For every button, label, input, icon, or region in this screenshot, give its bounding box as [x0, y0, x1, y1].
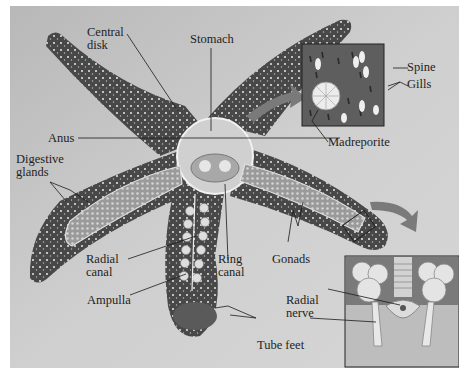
label-anus: Anus [48, 132, 74, 145]
label-radial-nerve: Radial nerve [286, 294, 319, 320]
label-ring-canal: Ring canal [218, 253, 244, 279]
label-gills: Gills [407, 78, 431, 91]
label-madreporite: Madreporite [328, 136, 390, 149]
label-spine: Spine [407, 61, 435, 74]
label-central-disk: Central disk [87, 26, 124, 52]
figure-illustration [10, 6, 459, 368]
label-stomach: Stomach [190, 33, 234, 46]
madreporite-inset [302, 44, 384, 126]
stomach-shape [191, 154, 239, 182]
tube-feet-tip [173, 302, 217, 330]
stomach-lobe [199, 160, 211, 172]
radial-canal-section [394, 257, 412, 297]
label-digestive-glands: Digestive glands [16, 153, 64, 179]
stomach-lobe [219, 160, 231, 172]
madreporite-grooves [312, 82, 340, 110]
label-radial-canal: Radial canal [86, 253, 119, 279]
sea-star-anatomy-figure: Central disk Stomach Anus Digestive glan… [10, 6, 459, 368]
radial-nerve-core [400, 305, 406, 311]
label-ampulla: Ampulla [87, 294, 131, 307]
cross-section-inset [345, 256, 459, 367]
label-tube-feet: Tube feet [257, 339, 304, 352]
label-gonads: Gonads [272, 253, 310, 266]
